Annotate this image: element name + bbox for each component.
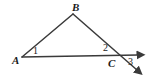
angle-label-3: 3: [128, 57, 133, 67]
segment-ab: [22, 14, 73, 57]
point-label-a: A: [12, 55, 19, 66]
angle-label-2: 2: [103, 43, 108, 53]
ray-ac-extended: [22, 55, 138, 57]
angle-label-1: 1: [33, 46, 38, 56]
geometry-diagram: A B C 1 2 3: [0, 0, 152, 78]
point-label-c: C: [108, 58, 115, 69]
point-label-b: B: [72, 2, 79, 13]
